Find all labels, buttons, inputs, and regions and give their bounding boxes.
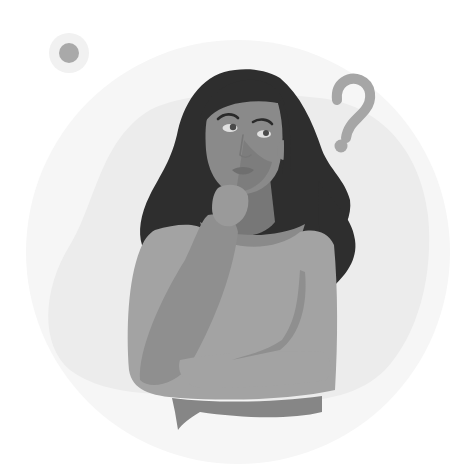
illustration-canvas: Thinking woman with hand on chin and a q… (0, 0, 464, 476)
question-mark-dot (335, 140, 348, 153)
right-eye-iris (263, 130, 269, 136)
thinking-woman-illustration (0, 0, 464, 476)
folded-arm (179, 351, 331, 388)
left-eye-iris (230, 124, 236, 130)
dot-core (59, 43, 79, 63)
decorative-dot (49, 33, 89, 73)
